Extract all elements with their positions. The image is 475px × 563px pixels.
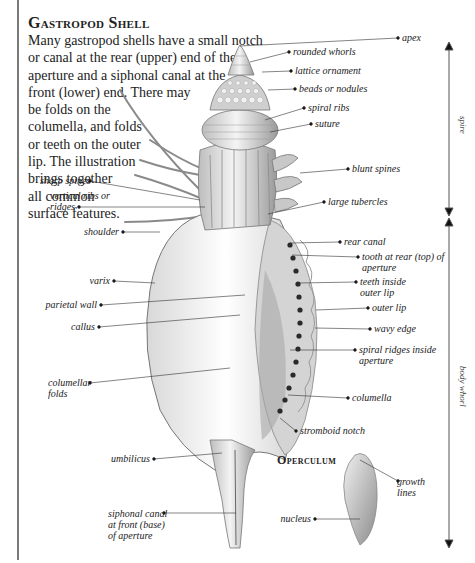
label-blunt-spines: blunt spines: [352, 163, 400, 174]
label-line: vertical ribs or: [50, 190, 105, 201]
label-line: outer lip: [360, 287, 406, 298]
label-teeth-inside-outer-lip: teeth inside outer lip: [360, 276, 406, 298]
label-line: teeth inside: [360, 276, 406, 287]
label-umbilicus: umbilicus: [100, 453, 150, 464]
label-line: ridges: [50, 201, 105, 212]
label-line: at front (base): [108, 519, 167, 530]
apex: [228, 45, 254, 75]
region-label-spire: spire: [458, 116, 468, 134]
label-line: aperture: [362, 262, 444, 273]
label-callus: callus: [60, 321, 95, 332]
label-sharp-spines: sharp spines: [40, 175, 86, 186]
label-beads-or-nodules: beads or nodules: [299, 83, 367, 94]
label-nucleus: nucleus: [270, 513, 311, 524]
label-line: growth: [397, 476, 425, 487]
region-arrows: [445, 42, 453, 548]
label-varix: varix: [70, 275, 110, 286]
label-outer-lip: outer lip: [372, 302, 406, 313]
label-line: columellar: [48, 377, 91, 388]
sharp-spines: [120, 90, 210, 222]
label-large-tubercles: large tubercles: [328, 196, 388, 207]
label-columella: columella: [352, 392, 391, 403]
label-rear-canal: rear canal: [344, 236, 386, 247]
label-columellar-folds: columellar folds: [48, 377, 91, 399]
label-line: spiral ridges inside: [359, 344, 436, 355]
operculum: [344, 454, 377, 546]
operculum-title: Operculum: [277, 453, 336, 468]
label-siphonal-canal: siphonal canal at front (base) of apertu…: [108, 508, 167, 541]
label-line: folds: [48, 388, 91, 399]
label-apex: apex: [402, 32, 421, 43]
label-parietal-wall: parietal wall: [40, 299, 97, 310]
label-vertical-ribs: vertical ribs or ridges: [50, 190, 105, 212]
siphonal-canal: [210, 440, 255, 548]
label-tooth-at-rear: tooth at rear (top) of aperture: [362, 251, 444, 273]
label-spiral-ridges: spiral ridges inside aperture: [359, 344, 436, 366]
label-lattice-ornament: lattice ornament: [295, 65, 361, 76]
label-spiral-ribs: spiral ribs: [308, 102, 349, 113]
label-line: aperture: [359, 355, 436, 366]
label-line: lines: [397, 487, 425, 498]
label-wavy-edge: wavy edge: [374, 323, 416, 334]
label-shoulder: shoulder: [70, 226, 119, 237]
label-line: tooth at rear (top) of: [362, 251, 444, 262]
label-suture: suture: [315, 118, 340, 129]
label-line: siphonal canal: [108, 508, 167, 519]
spiral-rib-whorl: [202, 110, 278, 150]
region-label-body-whorl: body whorl: [458, 366, 468, 407]
label-rounded-whorls: rounded whorls: [293, 46, 356, 57]
blunt-spines: [272, 154, 302, 212]
label-growth-lines: growth lines: [397, 476, 425, 498]
label-line: of aperture: [108, 530, 167, 541]
label-stromboid-notch: stromboid notch: [300, 425, 365, 436]
